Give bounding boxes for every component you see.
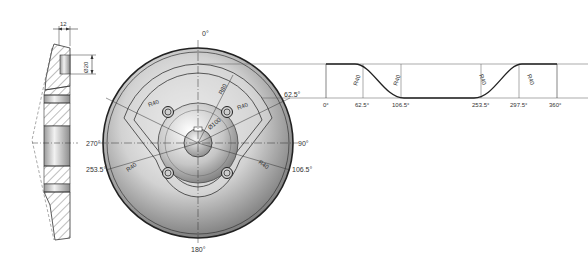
profile-fillet-r40-1: R40 bbox=[352, 73, 362, 86]
angle-label-106-5: 106.5° bbox=[292, 166, 313, 173]
angle-label-180: 180° bbox=[191, 246, 206, 253]
bolt-hole bbox=[163, 107, 174, 118]
cam-profile: 0° 62.5° 106.5° 253.5° 297.5° 360° R40 R… bbox=[323, 64, 562, 108]
profile-tick-253-5: 253.5° bbox=[472, 102, 490, 108]
profile-tick-0: 0° bbox=[323, 102, 329, 108]
profile-fillet-r40-4: R40 bbox=[526, 73, 536, 86]
angle-label-253-5: 253.5° bbox=[86, 166, 107, 173]
profile-tick-62-5: 62.5° bbox=[355, 102, 370, 108]
bolt-hole bbox=[222, 168, 233, 179]
bore-dim-label: Ø20 bbox=[83, 61, 89, 73]
profile-tick-106-5: 106.5° bbox=[392, 102, 410, 108]
cam-engineering-drawing: 12 Ø20 bbox=[0, 0, 588, 269]
angle-label-270: 270° bbox=[86, 140, 101, 147]
width-dim-label: 12 bbox=[60, 21, 67, 27]
angle-label-0: 0° bbox=[202, 30, 209, 37]
bore-dimension: Ø20 bbox=[70, 55, 96, 74]
angle-label-90: 90° bbox=[298, 140, 309, 147]
section-view: 12 Ø20 bbox=[32, 21, 96, 240]
profile-fillet-r40-3: R40 bbox=[478, 73, 488, 86]
bolt-hole bbox=[163, 168, 174, 179]
profile-tick-297-5: 297.5° bbox=[510, 102, 528, 108]
profile-tick-360: 360° bbox=[549, 102, 562, 108]
profile-fillet-r40-2: R40 bbox=[392, 73, 402, 86]
bolt-hole bbox=[222, 107, 233, 118]
angle-label-62-5: 62.5° bbox=[284, 91, 301, 98]
width-dimension: 12 bbox=[53, 21, 78, 46]
